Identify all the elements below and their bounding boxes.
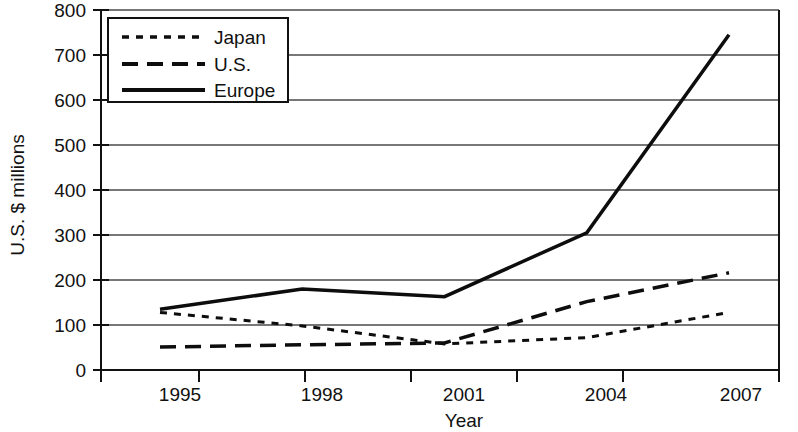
y-tick-label-800: 800	[54, 0, 86, 21]
chart-container: 800 700 600 500 400 300 200 100 0 1995 1…	[0, 0, 798, 432]
x-tick-label-2001: 2001	[443, 384, 485, 405]
x-tick-label-1998: 1998	[301, 384, 343, 405]
y-tick-label-300: 300	[54, 225, 86, 246]
y-tick-label-700: 700	[54, 45, 86, 66]
y-tick-label-600: 600	[54, 90, 86, 111]
line-chart: 800 700 600 500 400 300 200 100 0 1995 1…	[0, 0, 798, 432]
x-axis-title: Year	[445, 410, 484, 431]
y-axis-title: U.S. $ millions	[7, 134, 28, 255]
y-tick-label-100: 100	[54, 315, 86, 336]
legend-label-us: U.S.	[214, 54, 251, 75]
y-tick-labels: 800 700 600 500 400 300 200 100 0	[54, 0, 86, 381]
x-tick-label-1995: 1995	[159, 384, 201, 405]
legend-label-japan: Japan	[214, 27, 266, 48]
y-tick-label-0: 0	[75, 360, 86, 381]
y-tick-label-500: 500	[54, 135, 86, 156]
legend: Japan U.S. Europe	[108, 18, 288, 102]
x-tick-label-2007: 2007	[720, 384, 762, 405]
y-tick-label-200: 200	[54, 270, 86, 291]
x-tick-label-2004: 2004	[585, 384, 628, 405]
y-tick-label-400: 400	[54, 180, 86, 201]
legend-label-europe: Europe	[214, 80, 275, 101]
